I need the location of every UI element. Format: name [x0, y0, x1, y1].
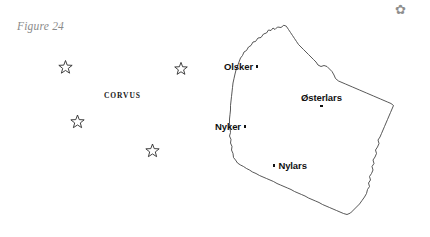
place-label: Nyker: [215, 121, 241, 132]
place-marker-icon: [256, 65, 258, 67]
map-and-stars-layer: [0, 0, 430, 237]
place-label: Nylars: [278, 160, 306, 171]
constellation-star: [146, 144, 159, 157]
place-label: Østerlars: [301, 92, 342, 103]
constellation-stars-group: [59, 61, 187, 157]
place-osterlars: Østerlars: [301, 92, 342, 107]
place-marker-icon: [244, 125, 246, 127]
place-label: Olsker: [224, 61, 253, 72]
figure-canvas: Figure 24 ✿ CORVUS OlskerØsterlarsNykerN…: [0, 0, 430, 237]
constellation-star: [175, 62, 188, 74]
island-coastline: [230, 26, 394, 215]
constellation-label-corvus: CORVUS: [104, 91, 141, 100]
place-marker-icon: [320, 105, 322, 107]
place-nylars: Nylars: [273, 160, 307, 171]
place-olsker: Olsker: [224, 61, 258, 72]
place-nyker: Nyker: [215, 121, 246, 132]
island-coastline-group: [230, 26, 394, 215]
constellation-star: [71, 115, 84, 128]
constellation-star: [59, 61, 72, 74]
place-marker-icon: [273, 164, 275, 166]
